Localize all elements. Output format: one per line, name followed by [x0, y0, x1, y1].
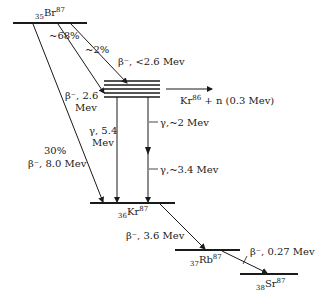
- gamma-34-label: γ,~3.4 Mev: [160, 164, 218, 175]
- kr86-symbol: Kr: [180, 95, 192, 106]
- beta-26-label-line2: Mev: [75, 102, 97, 113]
- rb87-mass-number: 87: [213, 253, 222, 261]
- branch-2-label: ~2%: [85, 44, 109, 55]
- sr87-symbol: Sr: [265, 278, 277, 289]
- gamma-2-mid-arrowhead: [145, 147, 151, 155]
- excited-band-levels: [104, 81, 160, 97]
- branch-68-label: ~68%: [49, 30, 80, 41]
- neutron-emission-label: Kr86 + n (0.3 Mev): [180, 95, 274, 106]
- kr87-label: 36Kr87: [118, 206, 148, 217]
- kr87-symbol: Kr: [127, 206, 139, 217]
- beta-lt26-label: β⁻, <2.6 Mev: [118, 56, 185, 67]
- rb87-symbol: Rb: [199, 254, 213, 265]
- gamma-2-label: γ,~2 Mev: [160, 117, 209, 128]
- beta-36-label: β⁻, 3.6 Mev: [126, 230, 184, 241]
- kr87-atomic-number: 36: [118, 212, 127, 220]
- gamma-54-label-line2: Mev: [92, 137, 114, 148]
- gamma-54-label-line1: γ, 5.4: [89, 125, 117, 136]
- branch-30-label: 30%: [44, 145, 66, 156]
- neutron-energy-text: + n (0.3 Mev): [201, 95, 274, 106]
- beta-80-label: β⁻, 8.0 Mev: [28, 158, 86, 169]
- beta-36-arrow: [160, 204, 205, 249]
- br87-symbol: Br: [44, 7, 56, 18]
- sr87-atomic-number: 38: [256, 284, 265, 292]
- br87-mass-number: 87: [56, 6, 65, 14]
- sr87-mass-number: 87: [277, 277, 286, 285]
- kr87-mass-number: 87: [139, 205, 148, 213]
- br87-atomic-number: 35: [35, 13, 44, 21]
- sr87-label: 38Sr87: [256, 278, 285, 289]
- rb87-atomic-number: 37: [190, 260, 199, 268]
- beta-26-label-line1: β⁻, 2.6: [65, 90, 98, 101]
- kr86-mass-number: 86: [192, 94, 201, 102]
- beta-027-label: β⁻, 0.27 Mev: [250, 246, 315, 257]
- rb87-label: 37Rb87: [190, 254, 222, 265]
- br87-label: 35Br87: [35, 7, 65, 18]
